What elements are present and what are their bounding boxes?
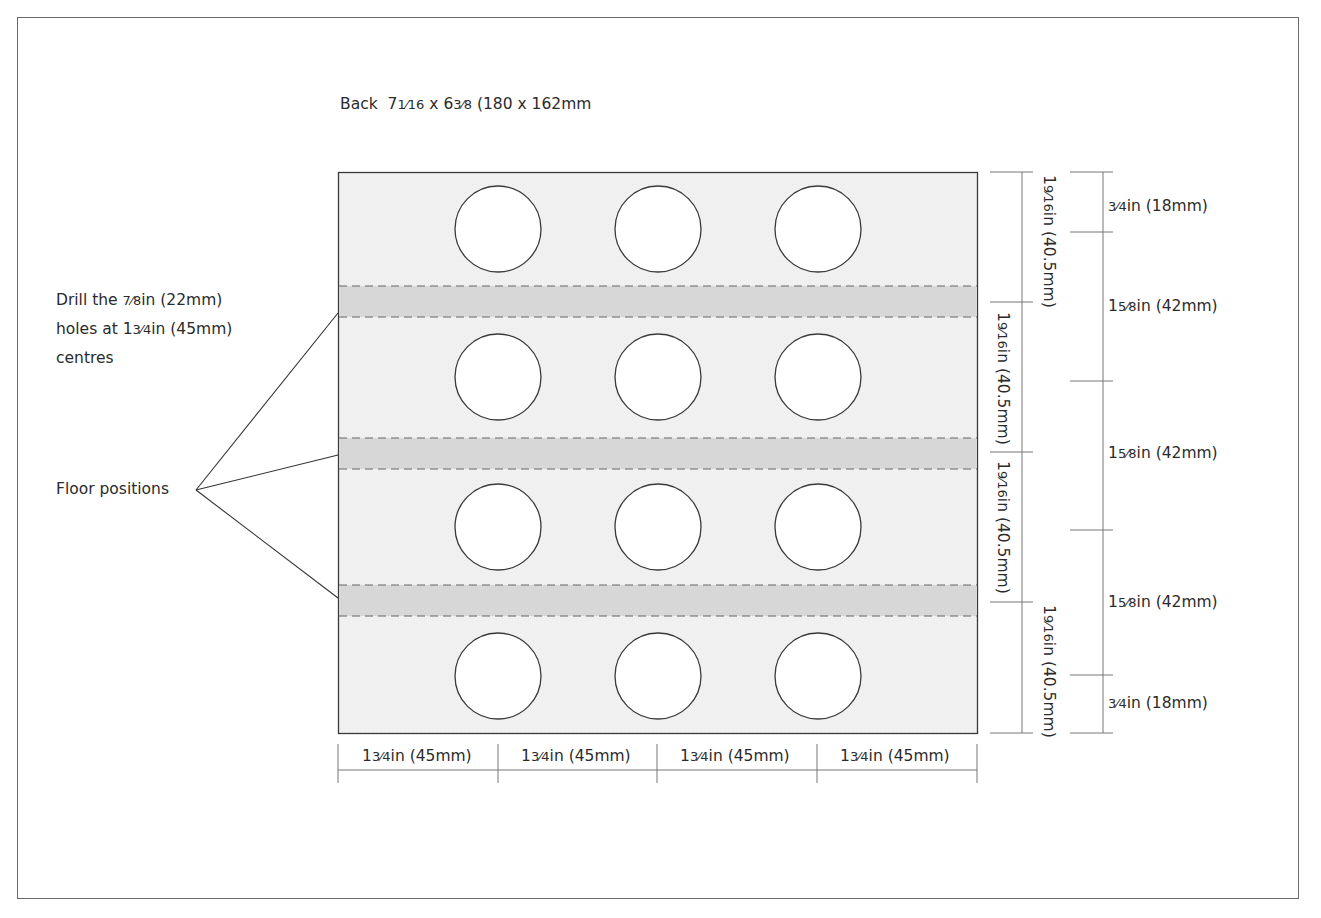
hole [455, 186, 541, 272]
floor-positions-label: Floor positions [56, 479, 169, 500]
outer-vertical-label-4: 15⁄8in (42mm) [1108, 592, 1218, 618]
outer-vertical-label-3: 15⁄8in (42mm) [1108, 443, 1218, 469]
drill-note-line-3: centres [56, 346, 232, 370]
hole [775, 334, 861, 420]
hole [455, 633, 541, 719]
bottom-dimension-label-4: 13⁄4in (45mm) [840, 746, 950, 772]
hole [615, 484, 701, 570]
hole [615, 186, 701, 272]
hole [775, 186, 861, 272]
bottom-dimension-label-2: 13⁄4in (45mm) [521, 746, 631, 772]
floor-band-2 [339, 438, 977, 469]
bottom-dimension-label-3: 13⁄4in (45mm) [680, 746, 790, 772]
outer-vertical-label-5: 3⁄4in (18mm) [1108, 693, 1208, 719]
drill-note-line-2: holes at 13⁄4in (45mm) [56, 317, 232, 346]
inner-vertical-label-2: 19⁄16in (40.5mm) [994, 312, 1012, 445]
title-prefix: Back [340, 95, 378, 113]
hole [615, 334, 701, 420]
bottom-dimension-label-1: 13⁄4in (45mm) [362, 746, 472, 772]
hole [775, 484, 861, 570]
floor-band-3 [339, 585, 977, 616]
title-height-whole: 6 [443, 95, 453, 113]
outer-vertical-dimension-lines [1070, 172, 1113, 733]
inner-vertical-label-4: 19⁄16in (40.5mm) [1040, 605, 1058, 738]
drill-note-line-1: Drill the 7⁄8in (22mm) [56, 288, 232, 317]
inner-vertical-label-3: 19⁄16in (40.5mm) [994, 461, 1012, 594]
title-times: x [429, 95, 438, 113]
hole [775, 633, 861, 719]
inner-vertical-dimension-lines [990, 172, 1033, 733]
hole [455, 334, 541, 420]
diagram-title: Back 71⁄16 x 63⁄8 (180 x 162mm [340, 94, 591, 120]
floor-band-1 [339, 286, 977, 317]
outer-vertical-label-2: 15⁄8in (42mm) [1108, 296, 1218, 322]
outer-vertical-label-1: 3⁄4in (18mm) [1108, 196, 1208, 222]
hole [615, 633, 701, 719]
title-metric: (180 x 162mm [477, 95, 591, 113]
drill-note: Drill the 7⁄8in (22mm) holes at 13⁄4in (… [56, 288, 232, 370]
hole [455, 484, 541, 570]
title-width-whole: 7 [388, 95, 398, 113]
inner-vertical-label-1: 19⁄16in (40.5mm) [1040, 175, 1058, 308]
